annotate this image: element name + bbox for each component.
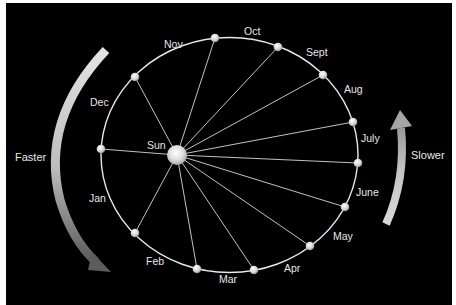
month-label-aug: Aug: [344, 83, 363, 95]
month-labels: NovOctSeptAugJulyJuneMayAprMarFebJanDec: [89, 25, 380, 285]
planet-icon-may: [306, 242, 315, 251]
sun-label: Sun: [147, 139, 166, 151]
planet-icon-sept: [319, 71, 328, 80]
slower-arrowhead-icon: [390, 110, 412, 130]
slower-label: Slower: [411, 149, 445, 161]
faster-arrowhead-icon: [88, 252, 111, 272]
month-label-jan: Jan: [89, 192, 106, 204]
month-label-nov: Nov: [164, 38, 183, 50]
ray-feb: [135, 155, 177, 233]
planet-icon-nov: [211, 34, 220, 43]
ray-mar: [177, 155, 197, 269]
sun-icon: [167, 145, 187, 165]
month-label-apr: Apr: [284, 262, 301, 274]
planet-icon-jan: [97, 145, 106, 154]
planet-icon-june: [341, 203, 350, 212]
month-label-may: May: [333, 230, 354, 242]
planet-icon-mar: [193, 265, 202, 274]
faster-label: Faster: [15, 151, 47, 163]
orbit-diagram: Sun NovOctSeptAugJulyJuneMayAprMarFebJan…: [0, 0, 456, 305]
ray-apr: [177, 155, 254, 270]
planet-positions: [97, 34, 363, 275]
planet-icon-oct: [274, 43, 283, 52]
month-label-july: July: [361, 132, 380, 144]
month-label-dec: Dec: [90, 96, 109, 108]
planet-icon-feb: [131, 229, 140, 238]
faster-arrow: [55, 50, 111, 272]
planet-icon-july: [354, 159, 363, 168]
month-label-mar: Mar: [219, 273, 238, 285]
ray-june: [177, 155, 345, 207]
planet-icon-apr: [250, 266, 259, 275]
ray-may: [177, 155, 310, 246]
month-label-feb: Feb: [146, 255, 164, 267]
planet-icon-aug: [349, 118, 358, 127]
month-label-sept: Sept: [306, 46, 328, 58]
month-label-oct: Oct: [244, 25, 260, 37]
planet-icon-dec: [131, 73, 140, 82]
month-label-june: June: [356, 186, 379, 198]
slower-arrow: [386, 110, 412, 224]
ray-july: [177, 155, 358, 163]
